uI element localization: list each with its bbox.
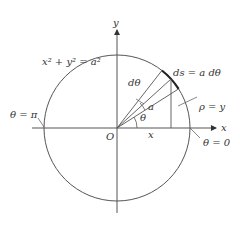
origin-label: O [106,131,114,142]
equation-label: x² + y² = a² [42,56,101,67]
arc-length-label: ds = a dθ [173,67,221,78]
rho-label: ρ = y [198,101,226,112]
radius-label: a [148,101,154,112]
theta-zero-label: θ = 0 [203,137,231,148]
theta-zero-leader [190,128,200,138]
x-axis-label: x [221,122,227,133]
theta-pi-leader [38,118,44,127]
dtheta-label: dθ [128,77,140,88]
y-axis-label: y [112,17,119,28]
x-segment-label: x [148,129,154,140]
circle-diagram: y x O x² + y² = a² ds = a dθ dθ a θ x ρ … [0,0,240,228]
theta-pi-label: θ = π [10,109,38,120]
theta-label: θ [140,112,146,123]
theta-angle-arc [134,117,137,128]
rho-leader [178,97,197,106]
